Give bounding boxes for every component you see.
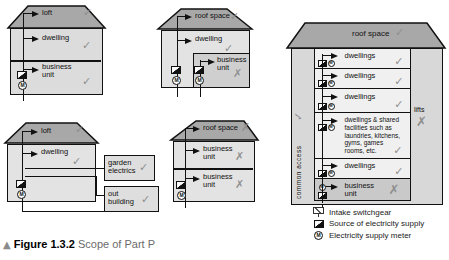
approval-mark: ✗ [241, 122, 250, 133]
supply-meter-icon: M [172, 76, 181, 85]
cable-bend [25, 176, 96, 177]
business-only-building: roof space ✗ business unit ✗ business un… [165, 115, 265, 215]
floor-label: business unit [203, 145, 239, 161]
figure-canvas: loft ✓ dwelling ✓ business unit ✓ M roof… [0, 0, 449, 260]
figure-number: Figure 1.3.2 [14, 238, 75, 250]
roof-label: loft [41, 127, 51, 135]
intake-switchgear-icon [312, 207, 325, 217]
supply-meter-icon: M [328, 80, 335, 87]
roof-label: loft [42, 9, 52, 17]
roof-shape [3, 122, 100, 144]
supply-source-icon [194, 66, 204, 74]
intake-switchgear-icon [200, 58, 215, 65]
supply-source-icon [17, 71, 27, 79]
supply-riser-wire [322, 54, 323, 203]
supply-source-icon [16, 180, 26, 188]
floor-row: dwellings ✓ M [315, 49, 410, 69]
intake-switchgear-icon [23, 150, 38, 157]
building-house-with-business-unit: loft ✓ dwelling ✓ business unit ✓ M [0, 0, 115, 110]
supply-meter-icon: M [17, 190, 26, 199]
legend-item-meter: M Electricity supply meter [312, 231, 411, 240]
figure-title: Scope of Part P [78, 238, 155, 250]
legend-label: Intake switchgear [329, 208, 391, 217]
approval-mark: ✓ [75, 124, 84, 135]
supply-meter-icon: M [312, 231, 325, 240]
approval-mark: ✓ [224, 43, 233, 54]
supply-meter-icon: M [328, 124, 335, 131]
intake-switchgear-icon [177, 13, 192, 20]
supply-meter-icon: M [18, 81, 27, 90]
approval-mark: ✓ [82, 40, 91, 51]
figure-caption: ▲ Figure 1.3.2 Scope of Part P [3, 238, 155, 250]
floor-row: dwellings ✓ M [315, 159, 410, 179]
cable-to-garden [25, 168, 104, 169]
legend-item-intake: Intake switchgear [312, 207, 391, 217]
common-access-label: common access [295, 129, 302, 199]
approval-mark: ✗ [416, 115, 427, 128]
approval-mark: ✓ [293, 112, 304, 121]
intake-switchgear-icon [323, 72, 338, 79]
approval-mark: ✗ [235, 179, 244, 190]
supply-meter-icon: M [195, 76, 204, 85]
floor-row: business unit ✗ M [315, 179, 410, 201]
floor-label: business unit [345, 182, 381, 198]
roof-label: roof space [352, 30, 389, 39]
roof-label: roof space [203, 124, 238, 132]
roof-label: roof space [195, 12, 230, 20]
approval-mark: ✓ [394, 166, 403, 177]
legend-item-source: Source of electricity supply [312, 219, 424, 228]
floor-label: dwelling [41, 148, 68, 156]
floor-row: dwellings ✓ M [315, 69, 410, 89]
intake-switchgear-icon [23, 128, 38, 135]
approval-mark: ✓ [394, 56, 403, 67]
floor-label: dwellings [345, 72, 376, 80]
building-with-inner-business-unit: roof space ✓ dwelling ✓ business unit ✗ … [150, 0, 265, 110]
approval-mark: ✓ [394, 76, 403, 87]
intake-switchgear-icon [24, 35, 39, 42]
approval-mark: ✗ [235, 151, 244, 162]
legend-label: Electricity supply meter [329, 231, 411, 240]
approval-mark: ✓ [230, 11, 239, 22]
supply-meter-icon: M [328, 103, 335, 110]
supply-meter-icon: M [328, 60, 335, 67]
supply-source-icon [312, 220, 325, 228]
lifts-label: lifts [414, 106, 425, 114]
floor-label: dwellings [345, 93, 376, 101]
floor-label: business unit [203, 173, 239, 189]
approval-mark: ✗ [389, 183, 400, 196]
outbuilding-label: garden electrics [108, 159, 140, 175]
floor-label: dwellings [345, 162, 376, 170]
cable-bend [96, 176, 97, 196]
floor-label: business unit [42, 63, 78, 79]
approval-mark: ✓ [394, 99, 403, 110]
supply-meter-icon: M [328, 170, 335, 177]
cable-to-outbuilding [96, 195, 104, 196]
flats-column: dwellings ✓ M dwellings ✓ M dwellings ✓ [314, 49, 411, 201]
floor-row: dwellings & shared facilities such as la… [315, 113, 410, 159]
approval-mark: ✓ [393, 145, 402, 156]
legend: Intake switchgear Source of electricity … [312, 207, 447, 243]
outbuilding-label: out building [108, 190, 140, 206]
floor-label: dwelling [195, 35, 222, 43]
approval-mark: ✓ [83, 7, 92, 18]
intake-switchgear-icon [185, 175, 200, 182]
supply-wire [22, 131, 23, 212]
supply-source-icon [171, 66, 181, 74]
intake-switchgear-icon [185, 147, 200, 154]
approval-mark: ✓ [141, 194, 150, 205]
supply-meter-icon: M [177, 191, 186, 200]
intake-switchgear-icon [24, 10, 39, 17]
intake-switchgear-icon [185, 125, 200, 132]
apartment-block: roof space ✓ ✓ common access lifts ✗ dwe… [285, 10, 449, 215]
intake-switchgear-icon [177, 37, 192, 44]
approval-mark: ✗ [233, 68, 242, 79]
approval-mark: ✓ [82, 76, 91, 87]
intake-switchgear-icon [323, 162, 338, 169]
approval-mark: ✓ [139, 162, 148, 173]
approval-mark: ✓ [395, 27, 404, 38]
intake-switchgear-icon [323, 52, 338, 59]
legend-label: Source of electricity supply [329, 219, 424, 228]
supply-source-icon [176, 181, 186, 189]
dwelling-with-outbuildings: loft ✓ dwelling ✓ M garden electrics ✓ o… [0, 115, 170, 225]
building-walls: ✓ common access lifts ✗ dwellings ✓ M dw… [291, 48, 443, 205]
